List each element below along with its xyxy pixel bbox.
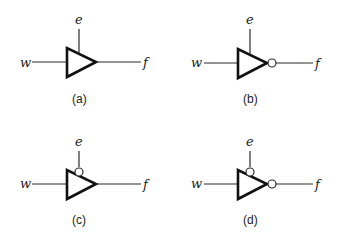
buffer-gate <box>67 48 96 77</box>
panel-c: w e f (c) <box>20 134 150 227</box>
output-label-f: f <box>314 177 322 192</box>
output-label-f: f <box>142 177 150 192</box>
output-label-f: f <box>142 55 150 70</box>
output-inversion-bubble <box>268 59 276 67</box>
input-label-w: w <box>20 55 31 70</box>
enable-label-e: e <box>75 134 83 149</box>
tristate-diagram: w e f (a) w e f (b) w e f (c) w <box>0 0 343 242</box>
enable-inversion-bubble <box>246 168 254 176</box>
input-label-w: w <box>20 176 31 191</box>
output-label-f: f <box>314 56 322 71</box>
caption-c: (c) <box>72 213 86 227</box>
caption-a: (a) <box>72 92 87 106</box>
input-label-w: w <box>191 176 202 191</box>
panel-a: w e f (a) <box>20 12 150 106</box>
enable-label-e: e <box>75 12 83 27</box>
enable-inversion-bubble <box>75 168 83 176</box>
enable-label-e: e <box>246 12 254 27</box>
panel-b: w e f (b) <box>191 12 322 106</box>
enable-label-e: e <box>246 134 254 149</box>
input-label-w: w <box>191 55 202 70</box>
caption-b: (b) <box>243 92 258 106</box>
panel-d: w e f (d) <box>191 134 322 227</box>
caption-d: (d) <box>243 213 258 227</box>
inverter-gate <box>238 49 267 78</box>
output-inversion-bubble <box>268 180 276 188</box>
